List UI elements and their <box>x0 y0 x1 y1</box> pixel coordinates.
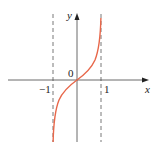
origin-label: 0 <box>68 68 74 79</box>
y-axis-label: y <box>67 10 72 21</box>
function-plot <box>0 0 161 150</box>
x-axis-label: x <box>145 84 150 95</box>
y-axis-arrow-icon <box>75 13 80 20</box>
x-tick-label-1: 1 <box>104 84 110 95</box>
x-axis-arrow-icon <box>142 78 149 83</box>
x-tick-label-neg1: −1 <box>39 84 51 95</box>
